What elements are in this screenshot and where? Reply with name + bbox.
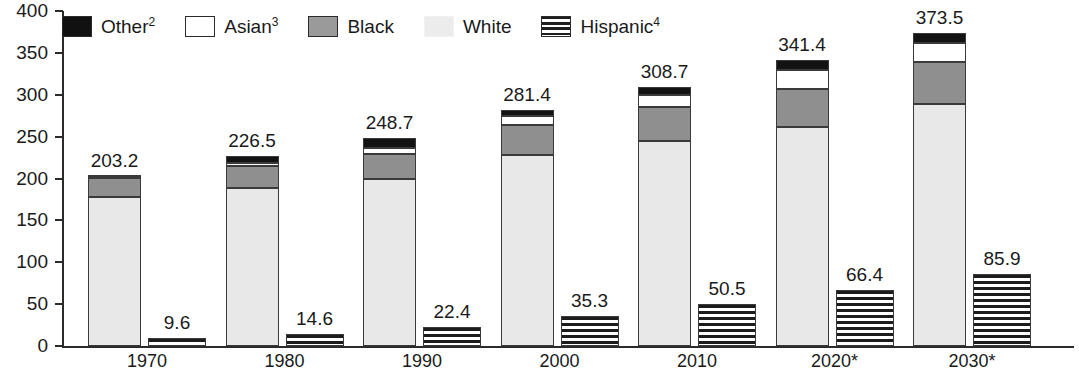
hispanic-bar	[148, 338, 206, 346]
y-axis-tick-label: 350	[2, 43, 48, 62]
bar-segment-other	[638, 87, 691, 94]
y-axis-tick	[55, 10, 63, 12]
bar-segment-white	[638, 141, 691, 346]
hispanic-value-label: 9.6	[134, 313, 220, 332]
hispanic-value-label: 66.4	[822, 265, 908, 284]
x-axis-tick-label: 1990	[363, 352, 481, 364]
bar-group-2030-projected: 373.585.92030*	[913, 0, 1031, 363]
bar-segment-black	[913, 62, 966, 104]
hispanic-bar	[286, 334, 344, 346]
y-axis-tick-label: 200	[2, 169, 48, 188]
bar-segment-asian	[913, 43, 966, 62]
stacked-bar	[913, 33, 966, 346]
bar-group-1990: 248.722.41990	[363, 0, 481, 363]
y-axis-tick	[55, 219, 63, 221]
x-axis-tick-label: 2020*	[776, 352, 894, 364]
hispanic-value-label: 22.4	[409, 302, 495, 321]
x-axis-tick-label: 1980	[226, 352, 344, 364]
total-value-label: 341.4	[762, 35, 843, 54]
y-axis-tick	[55, 94, 63, 96]
hispanic-bar	[973, 274, 1031, 346]
y-axis-tick	[55, 261, 63, 263]
bar-group-2010: 308.750.52010	[638, 0, 756, 363]
total-value-label: 373.5	[899, 8, 980, 27]
bar-segment-black	[363, 154, 416, 179]
bar-segment-other	[776, 60, 829, 70]
hispanic-bar	[698, 304, 756, 346]
y-axis-tick	[55, 345, 63, 347]
hispanic-value-label: 85.9	[959, 249, 1045, 268]
bar-segment-black	[776, 89, 829, 127]
y-axis-tick-label: 0	[2, 336, 48, 355]
total-value-label: 248.7	[349, 113, 430, 132]
total-value-label: 281.4	[487, 85, 568, 104]
bar-group-1970: 203.29.61970	[88, 0, 206, 363]
x-axis-tick-label: 2030*	[913, 352, 1031, 364]
bar-segment-other	[88, 175, 141, 177]
y-axis-tick-label: 150	[2, 210, 48, 229]
y-axis-tick	[55, 178, 63, 180]
total-value-label: 203.2	[74, 151, 155, 170]
x-axis-tick-label: 2010	[638, 352, 756, 364]
bar-group-2000: 281.435.32000	[501, 0, 619, 363]
y-axis-tick-label: 50	[2, 294, 48, 313]
bar-segment-other	[226, 156, 279, 163]
total-value-label: 308.7	[624, 62, 705, 81]
y-axis-tick	[55, 303, 63, 305]
stacked-bar	[776, 60, 829, 346]
bar-segment-other	[363, 138, 416, 148]
x-axis-tick-label: 2000	[501, 352, 619, 364]
bar-segment-asian	[776, 70, 829, 89]
bar-segment-other	[501, 110, 554, 115]
bar-segment-black	[501, 125, 554, 155]
y-axis-tick-label: 300	[2, 85, 48, 104]
hispanic-value-label: 14.6	[272, 309, 358, 328]
hispanic-bar	[423, 327, 481, 346]
stacked-bar	[501, 110, 554, 346]
bar-segment-other	[913, 33, 966, 43]
hispanic-value-label: 50.5	[684, 279, 770, 298]
bar-group-1980: 226.514.61980	[226, 0, 344, 363]
y-axis-tick-label: 100	[2, 252, 48, 271]
y-axis-tick	[55, 136, 63, 138]
y-axis-tick	[55, 52, 63, 54]
stacked-bar	[638, 87, 691, 346]
bar-segment-white	[776, 127, 829, 346]
y-axis-tick-label: 250	[2, 127, 48, 146]
bar-segment-black	[226, 166, 279, 188]
bar-segment-black	[638, 107, 691, 141]
x-axis-tick-label: 1970	[88, 352, 206, 364]
bar-segment-asian	[226, 163, 279, 166]
y-axis-tick-label: 400	[2, 1, 48, 20]
bar-segment-asian	[501, 116, 554, 125]
bar-segment-black	[88, 178, 141, 197]
bar-segment-white	[913, 104, 966, 346]
bar-segment-asian	[363, 148, 416, 154]
bar-segment-asian	[638, 95, 691, 107]
hispanic-bar	[836, 290, 894, 346]
bar-group-2020-projected: 341.466.42020*	[776, 0, 894, 363]
hispanic-value-label: 35.3	[547, 291, 633, 310]
total-value-label: 226.5	[212, 131, 293, 150]
hispanic-bar	[561, 316, 619, 346]
bar-segment-white	[501, 155, 554, 346]
